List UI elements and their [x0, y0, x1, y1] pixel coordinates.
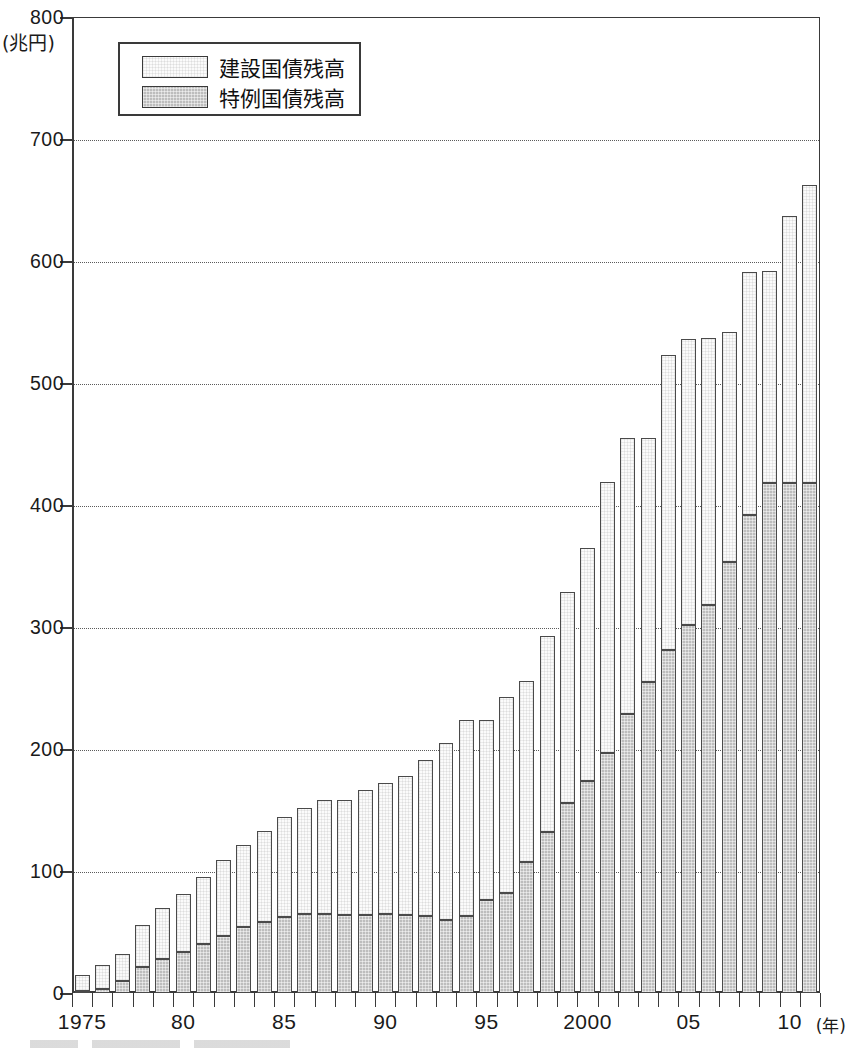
bar-segment-construction	[600, 482, 615, 753]
x-axis-tick-label: 85	[272, 1010, 296, 1034]
bar-segment-special	[782, 483, 797, 993]
bar-segment-special	[95, 989, 110, 993]
bar-1999	[560, 592, 575, 993]
bar-segment-construction	[620, 438, 635, 714]
x-axis-tick-mark	[173, 993, 174, 1007]
x-axis-tick-mark	[678, 993, 679, 1007]
x-axis-tick-mark	[476, 993, 477, 1007]
bar-segment-special	[196, 944, 211, 993]
bar-segment-construction	[216, 860, 231, 936]
y-axis-tick-label: 500	[6, 372, 64, 395]
x-axis-tick-mark	[557, 993, 558, 1007]
x-axis-tick-mark	[577, 993, 578, 1007]
bar-segment-special	[115, 981, 130, 993]
bar-segment-construction	[661, 355, 676, 650]
bar-segment-construction	[337, 800, 352, 915]
bar-segment-special	[620, 714, 635, 993]
legend: 建設国債残高 特例国債残高	[118, 42, 361, 116]
x-axis-tick-mark	[598, 993, 599, 1007]
bar-2000	[580, 548, 595, 993]
y-axis-tick-label: 400	[6, 494, 64, 517]
bar-2003	[641, 438, 656, 993]
x-axis-tick-mark	[133, 993, 134, 1007]
x-axis-tick-mark	[800, 993, 801, 1007]
y-axis-tick-label: 300	[6, 616, 64, 639]
x-axis-tick-mark	[355, 993, 356, 1007]
bar-segment-special	[540, 832, 555, 993]
bar-segment-special	[297, 914, 312, 993]
bar-segment-special	[560, 803, 575, 993]
bar-1992	[418, 760, 433, 993]
bar-1998	[540, 636, 555, 993]
x-axis-tick-mark	[375, 993, 376, 1007]
bar-1997	[519, 681, 534, 993]
bar-1978	[135, 925, 150, 993]
x-axis-tick-mark	[92, 993, 93, 1007]
bar-segment-special	[701, 605, 716, 993]
bar-segment-special	[681, 625, 696, 993]
bar-segment-construction	[580, 548, 595, 781]
bar-segment-construction	[75, 975, 90, 991]
bar-1993	[439, 743, 454, 993]
bar-segment-construction	[722, 332, 737, 563]
bar-segment-construction	[95, 965, 110, 989]
x-axis-tick-mark	[780, 993, 781, 1007]
x-axis-tick-mark	[315, 993, 316, 1007]
bar-1980	[176, 894, 191, 993]
bar-segment-special	[459, 916, 474, 993]
bar-segment-special	[337, 915, 352, 993]
x-axis-tick-mark	[193, 993, 194, 1007]
bar-segment-special	[75, 991, 90, 993]
bar-1981	[196, 877, 211, 993]
x-axis-tick-mark	[395, 993, 396, 1007]
x-axis-tick-mark	[416, 993, 417, 1007]
bar-segment-construction	[358, 790, 373, 914]
x-axis-tick-label: 05	[676, 1010, 700, 1034]
x-axis-tick-label: 2000	[563, 1010, 612, 1034]
bar-1996	[499, 697, 514, 993]
bar-segment-construction	[135, 925, 150, 968]
x-axis-tick-mark	[274, 993, 275, 1007]
x-axis-tick-mark	[153, 993, 154, 1007]
bar-segment-special	[722, 562, 737, 993]
bar-1979	[155, 908, 170, 993]
bar-2007	[722, 332, 737, 993]
bar-segment-construction	[418, 760, 433, 916]
bar-segment-construction	[519, 681, 534, 863]
bar-1995	[479, 720, 494, 993]
x-axis-tick-mark	[436, 993, 437, 1007]
x-axis-tick-mark	[214, 993, 215, 1007]
bar-segment-construction	[802, 185, 817, 483]
x-axis-tick-mark	[72, 993, 73, 1007]
bar-1990	[378, 783, 393, 993]
x-axis-tick-label: 10	[777, 1010, 801, 1034]
y-axis-tick-label: 200	[6, 738, 64, 761]
x-axis-tick-mark	[517, 993, 518, 1007]
x-axis-tick-mark	[234, 993, 235, 1007]
y-axis-tick-label: 100	[6, 860, 64, 883]
bar-1991	[398, 776, 413, 993]
legend-label-special: 特例国債残高	[219, 82, 345, 112]
x-axis-tick-mark	[537, 993, 538, 1007]
bar-1984	[257, 831, 272, 993]
bar-segment-special	[479, 900, 494, 993]
bar-segment-construction	[378, 783, 393, 914]
bar-segment-special	[216, 936, 231, 993]
bar-segment-construction	[196, 877, 211, 944]
x-axis-tick-mark	[112, 993, 113, 1007]
bar-segment-special	[802, 483, 817, 993]
bar-1986	[297, 808, 312, 993]
bar-segment-special	[641, 682, 656, 993]
y-axis-tick-label: 0	[6, 982, 64, 1005]
bar-1987	[317, 800, 332, 993]
bar-segment-construction	[540, 636, 555, 832]
legend-item-construction: 建設国債残高	[142, 52, 345, 82]
legend-swatch-construction-icon	[142, 56, 208, 78]
bar-2005	[681, 339, 696, 993]
bar-segment-special	[236, 927, 251, 993]
x-axis-tick-mark	[719, 993, 720, 1007]
bar-segment-construction	[297, 808, 312, 914]
bar-2006	[701, 338, 716, 993]
legend-item-special: 特例国債残高	[142, 82, 345, 112]
